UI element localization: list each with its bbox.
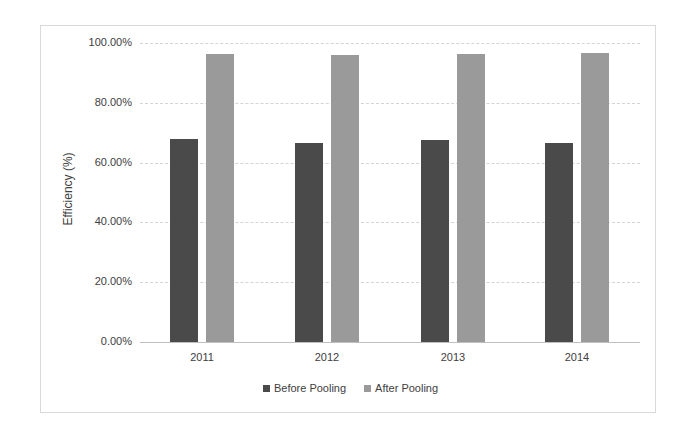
legend-swatch-after: [364, 385, 371, 392]
bar-after-2012: [331, 55, 359, 342]
bar-after-2013: [457, 54, 485, 342]
y-tick-label: 40.00%: [60, 215, 132, 227]
legend-item-after: After Pooling: [364, 382, 438, 394]
y-tick-label: 0.00%: [60, 335, 132, 347]
legend-label-before: Before Pooling: [274, 382, 346, 394]
x-tick-label: 2011: [172, 351, 232, 363]
y-tick-label: 60.00%: [60, 156, 132, 168]
x-tick-label: 2012: [297, 351, 357, 363]
y-tick-label: 100.00%: [60, 36, 132, 48]
x-axis-line: [140, 342, 640, 343]
legend-swatch-before: [263, 385, 270, 392]
bar-after-2014: [581, 53, 609, 342]
x-tick-label: 2014: [547, 351, 607, 363]
bar-before-2011: [170, 139, 198, 342]
legend: Before Pooling After Pooling: [0, 382, 691, 394]
x-tick-label: 2013: [423, 351, 483, 363]
legend-label-after: After Pooling: [375, 382, 438, 394]
bar-before-2012: [295, 143, 323, 342]
y-tick-label: 80.00%: [60, 96, 132, 108]
gridline: [140, 43, 640, 44]
bar-before-2014: [545, 143, 573, 342]
legend-item-before: Before Pooling: [263, 382, 346, 394]
y-tick-label: 20.00%: [60, 275, 132, 287]
bar-before-2013: [421, 140, 449, 342]
bar-after-2011: [206, 54, 234, 342]
